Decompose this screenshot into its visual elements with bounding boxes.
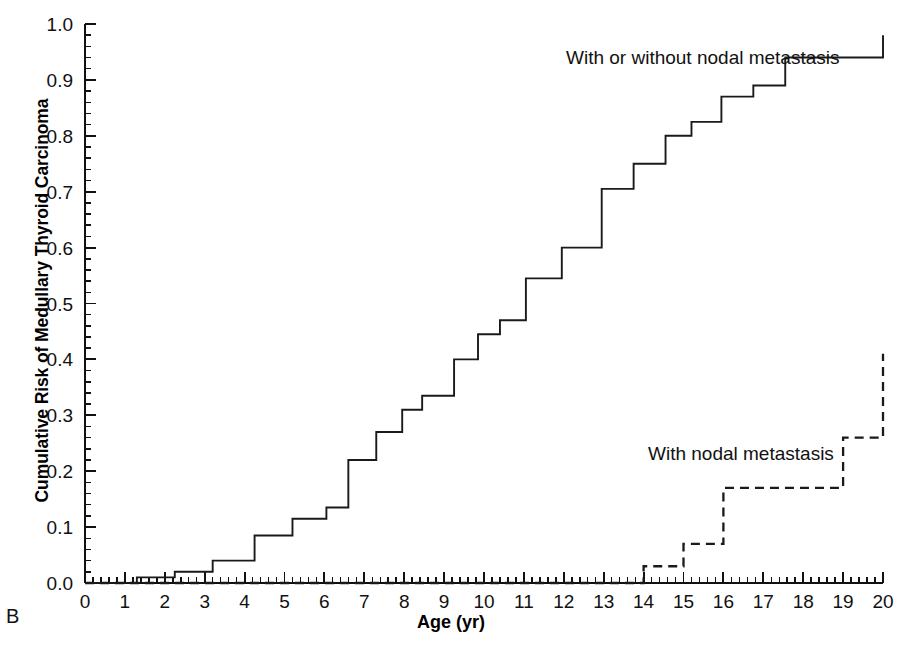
x-tick-label: 14 <box>633 591 655 612</box>
tick-labels-group: 012345678910111213141516171819200.00.10.… <box>47 14 894 612</box>
x-tick-label: 20 <box>872 591 893 612</box>
x-tick-label: 11 <box>514 591 534 612</box>
y-axis-title: Cumulative Risk of Medullary Thyroid Car… <box>32 66 53 536</box>
x-tick-label: 1 <box>120 591 131 612</box>
y-tick-label: 1.0 <box>47 14 73 35</box>
x-tick-label: 12 <box>553 591 574 612</box>
series-line-dashed <box>85 354 883 583</box>
x-tick-label: 8 <box>399 591 410 612</box>
axes-group <box>85 24 883 583</box>
figure-panel-b: 012345678910111213141516171819200.00.10.… <box>0 0 902 648</box>
x-tick-label: 15 <box>673 591 694 612</box>
x-tick-label: 9 <box>439 591 450 612</box>
x-tick-label: 19 <box>833 591 854 612</box>
series-annotation-solid: With or without nodal metastasis <box>566 47 840 69</box>
chart-canvas: 012345678910111213141516171819200.00.10.… <box>0 0 902 648</box>
x-tick-label: 3 <box>199 591 210 612</box>
y-tick-label: 0.0 <box>47 573 73 594</box>
x-tick-label: 7 <box>359 591 370 612</box>
x-axis-title: Age (yr) <box>0 612 902 633</box>
x-tick-label: 17 <box>753 591 774 612</box>
x-tick-label: 5 <box>279 591 290 612</box>
x-tick-label: 4 <box>239 591 250 612</box>
x-tick-label: 6 <box>319 591 330 612</box>
series-line-solid <box>85 35 883 583</box>
x-tick-label: 16 <box>713 591 734 612</box>
x-tick-label: 10 <box>473 591 494 612</box>
x-tick-label: 18 <box>793 591 814 612</box>
series-annotation-dashed: With nodal metastasis <box>648 443 834 465</box>
x-tick-label: 2 <box>160 591 171 612</box>
panel-label: B <box>6 605 19 628</box>
x-tick-label: 0 <box>80 591 91 612</box>
x-tick-label: 13 <box>593 591 614 612</box>
tick-marks-group <box>85 24 883 583</box>
